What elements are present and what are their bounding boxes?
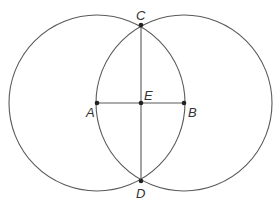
point-B — [182, 101, 187, 106]
point-A — [95, 101, 100, 106]
label-D: D — [136, 186, 145, 201]
geometry-diagram: A B C D E — [0, 0, 277, 206]
label-E: E — [144, 88, 153, 103]
point-D — [139, 179, 144, 184]
point-E — [139, 101, 144, 106]
label-A: A — [85, 105, 95, 120]
label-C: C — [136, 8, 146, 23]
label-B: B — [188, 105, 197, 120]
point-C — [139, 23, 144, 28]
